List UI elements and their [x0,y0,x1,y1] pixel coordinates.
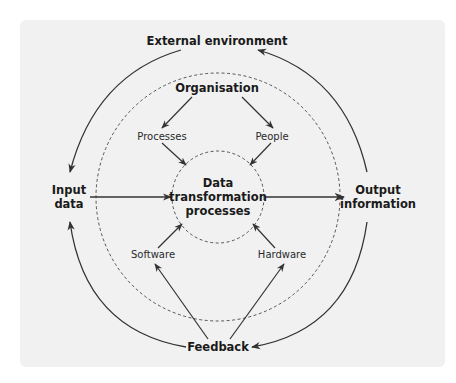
label-processes: Processes [137,130,186,144]
label-feedback: Feedback [187,340,249,354]
arrow-people-to-core [250,143,271,165]
label-core-line2: transformation [169,190,267,204]
arrow-organisation-to-people [242,97,273,128]
arrow-feedback-to-hardware [230,264,284,339]
label-output-line2: information [340,197,416,211]
arrow-software-to-core [158,224,182,248]
arrow-hardware-to-core [253,224,275,248]
arrow-processes-to-core [162,143,186,165]
arrow-output-to-external [258,50,367,172]
label-software: Software [131,248,175,262]
label-hardware: Hardware [258,248,306,262]
label-organisation: Organisation [175,81,259,95]
arrow-organisation-to-processes [162,97,192,128]
arrow-external-to-input [70,50,181,172]
label-core-line1: Data [203,176,234,190]
label-core-line3: processes [186,204,251,218]
arrow-feedback-to-input [70,222,186,347]
label-people: People [255,130,288,144]
arrow-feedback-to-software [155,264,208,339]
label-external-environment: External environment [147,34,288,48]
label-output-line1: Output [355,183,400,197]
label-input-line2: data [54,197,83,211]
label-input-line1: Input [52,183,86,197]
